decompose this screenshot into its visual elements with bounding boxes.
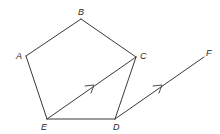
edge-CD [115, 57, 136, 119]
segment-DF [115, 57, 204, 119]
pentagon-diagram: B A C E D F [0, 0, 220, 134]
edge-BC [81, 19, 136, 57]
diagonal-EC [47, 57, 136, 119]
diagram-canvas: B A C E D F [0, 0, 220, 134]
label-A: A [15, 51, 22, 61]
label-D: D [113, 122, 120, 132]
label-B: B [78, 7, 84, 17]
label-C: C [140, 51, 147, 61]
label-E: E [41, 122, 48, 132]
edge-AB [26, 19, 81, 56]
label-F: F [206, 48, 212, 58]
edge-EA [26, 56, 47, 119]
